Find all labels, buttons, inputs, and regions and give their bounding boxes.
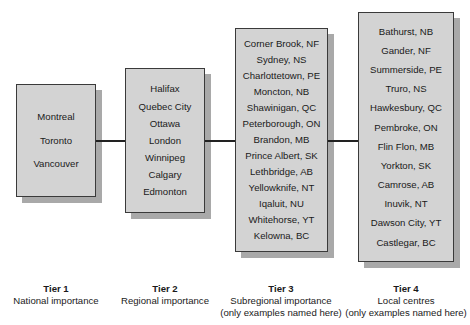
- tier1-box: Montreal Toronto Vancouver: [16, 84, 96, 197]
- city-label: Calgary: [148, 170, 181, 180]
- city-label: Gander, NF: [381, 46, 431, 56]
- tier2-subtitle: Regional importance: [121, 295, 209, 307]
- city-label: Prince Albert, SK: [245, 151, 318, 161]
- tier3-box: Corner Brook, NF Sydney, NS Charlottetow…: [235, 28, 328, 252]
- city-label: Castlegar, BC: [376, 238, 435, 248]
- tier2-title: Tier 2: [121, 283, 209, 295]
- city-label: Halifax: [150, 84, 179, 94]
- city-label: Whitehorse, YT: [249, 215, 315, 225]
- city-label: Truro, NS: [385, 84, 426, 94]
- city-label: Edmonton: [143, 187, 187, 197]
- city-label: Ottawa: [150, 119, 180, 129]
- tier3-title: Tier 3: [220, 283, 342, 295]
- city-label: Toronto: [40, 136, 72, 146]
- city-label: Shawinigan, QC: [247, 103, 316, 113]
- city-label: Camrose, AB: [378, 180, 435, 190]
- city-label: Moncton, NB: [254, 87, 309, 97]
- tier1-caption: Tier 1 National importance: [13, 283, 98, 307]
- city-label: Quebec City: [139, 102, 192, 112]
- tier4-title: Tier 4: [345, 283, 467, 295]
- tier2-caption: Tier 2 Regional importance: [121, 283, 209, 307]
- tier3-caption: Tier 3 Subregional importance (only exam…: [220, 283, 342, 319]
- city-label: Yellowknife, NT: [249, 183, 315, 193]
- tier4-subtitle: Local centres: [345, 295, 467, 307]
- tier1-subtitle: National importance: [13, 295, 98, 307]
- tier4-note: (only examples named here): [345, 307, 467, 319]
- city-label: Inuvik, NT: [384, 199, 427, 209]
- city-label: Summerside, PE: [370, 65, 442, 75]
- connector-tier3-tier4: [327, 140, 358, 142]
- city-label: Montreal: [37, 112, 74, 122]
- tier2-box: Halifax Quebec City Ottawa London Winnip…: [125, 68, 205, 213]
- city-label: Lethbridge, AB: [250, 167, 313, 177]
- city-label: London: [149, 136, 181, 146]
- city-label: Bathurst, NB: [379, 27, 433, 37]
- tier1-title: Tier 1: [13, 283, 98, 295]
- city-label: Winnipeg: [145, 153, 185, 163]
- tier4-box: Bathurst, NB Gander, NF Summerside, PE T…: [358, 12, 454, 262]
- city-label: Sydney, NS: [257, 55, 307, 65]
- tier3-note: (only examples named here): [220, 307, 342, 319]
- city-label: Dawson City, YT: [371, 218, 442, 228]
- tier3-subtitle: Subregional importance: [220, 295, 342, 307]
- city-label: Peterborough, ON: [243, 119, 321, 129]
- city-label: Flin Flon, MB: [378, 142, 435, 152]
- connector-tier2-tier3: [205, 140, 235, 142]
- city-label: Hawkesbury, QC: [370, 103, 442, 113]
- city-label: Charlottetown, PE: [243, 71, 320, 81]
- city-label: Pembroke, ON: [374, 123, 437, 133]
- city-label: Yorkton, SK: [381, 161, 431, 171]
- city-label: Brandon, MB: [254, 135, 310, 145]
- tier4-caption: Tier 4 Local centres (only examples name…: [345, 283, 467, 319]
- city-label: Kelowna, BC: [254, 231, 309, 241]
- city-label: Corner Brook, NF: [244, 39, 319, 49]
- city-label: Vancouver: [33, 159, 78, 169]
- connector-tier1-tier2: [96, 140, 125, 142]
- city-label: Iqaluit, NU: [259, 199, 304, 209]
